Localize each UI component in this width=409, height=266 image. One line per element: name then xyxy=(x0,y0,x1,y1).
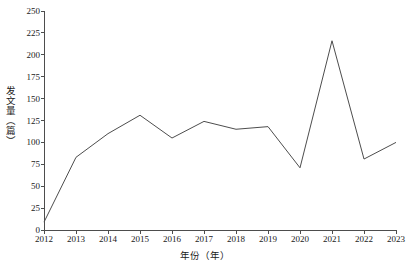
x-axis-tick-label: 2013 xyxy=(67,234,85,244)
x-axis-tick-label: 2016 xyxy=(163,234,181,244)
x-axis-tick-label: 2019 xyxy=(259,234,277,244)
x-axis-tick-label: 2023 xyxy=(387,234,405,244)
x-axis-tick-label: 2012 xyxy=(35,234,53,244)
x-axis-tick-label: 2020 xyxy=(291,234,309,244)
x-axis-tick-label: 2015 xyxy=(131,234,149,244)
publication-count-line-chart: 发文量（篇） 0255075100125150175200225250 2012… xyxy=(0,0,409,266)
x-axis-label: 年份（年） xyxy=(0,248,409,262)
plot-area xyxy=(0,0,409,266)
data-series-line xyxy=(44,41,396,222)
x-axis-tick-label: 2021 xyxy=(323,234,341,244)
x-axis-tick-label: 2018 xyxy=(227,234,245,244)
x-axis-tick-label: 2022 xyxy=(355,234,373,244)
x-axis-tick-label: 2017 xyxy=(195,234,213,244)
x-axis-tick-label: 2014 xyxy=(99,234,117,244)
